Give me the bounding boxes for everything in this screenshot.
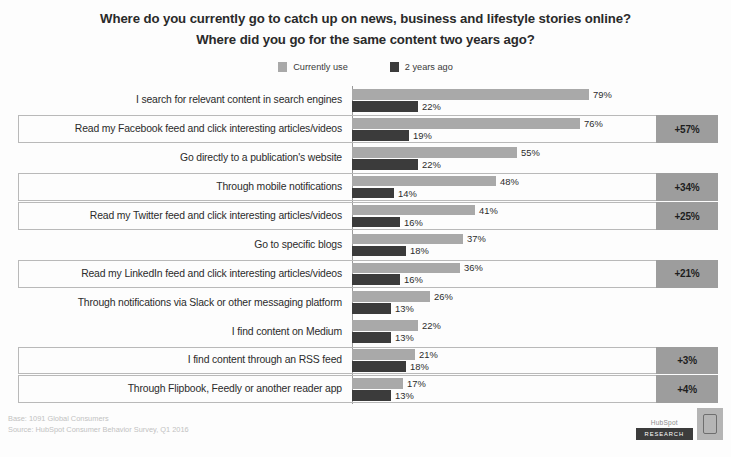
bar-value-label: 17% [407,378,426,389]
chart-row: Through notifications via Slack or other… [0,288,731,317]
chart-page: Where do you currently go to catch up on… [0,0,731,457]
legend-swatch-icon [390,62,399,72]
bar-two-years-ago [352,303,391,314]
bar-value-label: 79% [593,89,612,100]
bar-two-years-ago [352,246,406,257]
legend-item-2: 2 years ago [390,62,453,72]
chart-row: I find content on Medium22%13% [0,317,731,346]
delta-badge: +57% [656,115,718,143]
bar-two-years-ago [352,130,409,141]
category-label: Through Flipbook, Feedly or another read… [0,375,348,404]
delta-badge: +34% [656,173,718,201]
chart-row: Read my Twitter feed and click interesti… [0,202,731,231]
legend-label: 2 years ago [405,62,453,72]
chart-row: Through Flipbook, Feedly or another read… [0,375,731,404]
brand-mark: HubSpot RESEARCH [636,419,693,440]
bar-currently-use [352,205,475,216]
brand-logo: HubSpot RESEARCH [636,408,723,440]
category-label: I search for relevant content in search … [0,86,348,115]
bar-currently-use [352,349,415,360]
bar-group: 13% [352,303,731,314]
category-label: Read my Facebook feed and click interest… [0,115,348,144]
bar-value-label: 18% [410,245,429,256]
bar-currently-use [352,378,403,389]
bar-value-label: 18% [410,361,429,372]
bar-value-label: 36% [464,262,483,273]
bar-group: 26% [352,291,731,302]
category-label: Go to specific blogs [0,230,348,259]
delta-badge: +21% [656,260,718,288]
chart-legend: Currently use2 years ago [0,62,731,72]
legend-label: Currently use [293,62,348,72]
brand-badge-inner [703,414,717,434]
bar-two-years-ago [352,274,400,285]
bar-two-years-ago [352,188,394,199]
chart-row: Read my LinkedIn feed and click interest… [0,259,731,288]
footer-notes: Base: 1091 Global Consumers Source: HubS… [8,414,189,435]
bar-group: 79% [352,89,731,100]
bar-value-label: 41% [479,205,498,216]
bar-value-label: 21% [419,349,438,360]
row-bars: 55%22% [348,144,731,173]
bar-rows: I search for relevant content in search … [0,86,731,404]
bar-value-label: 13% [395,332,414,343]
chart-row: Go to specific blogs37%18% [0,230,731,259]
brand-badge-icon [697,408,723,440]
bar-value-label: 22% [422,159,441,170]
bar-group: 37% [352,234,731,245]
footer-base: Base: 1091 Global Consumers [8,414,189,425]
bar-two-years-ago [352,361,406,372]
bar-currently-use [352,89,589,100]
bar-value-label: 19% [413,130,432,141]
bar-currently-use [352,118,580,129]
bar-group: 18% [352,246,731,257]
delta-badge: +3% [656,347,718,375]
category-label: Through mobile notifications [0,173,348,202]
bar-group: 22% [352,320,731,331]
category-label: I find content on Medium [0,317,348,346]
bar-two-years-ago [352,217,400,228]
bar-value-label: 37% [467,233,486,244]
row-bars: 22%13% [348,317,731,346]
category-label: Read my LinkedIn feed and click interest… [0,259,348,288]
page-title: Where do you currently go to catch up on… [0,8,731,50]
chart-plot-area: I search for relevant content in search … [0,86,731,404]
bar-value-label: 26% [434,291,453,302]
bar-currently-use [352,234,463,245]
bar-value-label: 14% [398,188,417,199]
category-label: Read my Twitter feed and click interesti… [0,202,348,231]
brand-research-chip: RESEARCH [636,428,693,440]
bar-value-label: 13% [395,390,414,401]
title-line-2: Where did you go for the same content tw… [0,29,731,50]
bar-group: 22% [352,101,731,112]
chart-row: Through mobile notifications48%14%+34% [0,173,731,202]
bar-value-label: 13% [395,303,414,314]
legend-item-1: Currently use [278,62,348,72]
bar-value-label: 16% [404,274,423,285]
chart-row: Go directly to a publication's website55… [0,144,731,173]
row-bars: 26%13% [348,288,731,317]
category-label: Go directly to a publication's website [0,144,348,173]
bar-value-label: 55% [521,147,540,158]
bar-currently-use [352,291,430,302]
chart-row: Read my Facebook feed and click interest… [0,115,731,144]
bar-currently-use [352,176,496,187]
row-bars: 37%18% [348,230,731,259]
category-label: Through notifications via Slack or other… [0,288,348,317]
bar-two-years-ago [352,332,391,343]
chart-row: I find content through an RSS feed21%18%… [0,346,731,375]
bar-value-label: 22% [422,320,441,331]
row-bars: 79%22% [348,86,731,115]
legend-swatch-icon [278,62,287,72]
bar-value-label: 76% [584,118,603,129]
bar-group: 13% [352,332,731,343]
bar-currently-use [352,263,460,274]
bar-value-label: 16% [404,217,423,228]
bar-value-label: 22% [422,101,441,112]
bar-group: 22% [352,159,731,170]
bar-currently-use [352,320,418,331]
footer-source: Source: HubSpot Consumer Behavior Survey… [8,425,189,436]
chart-row: I search for relevant content in search … [0,86,731,115]
bar-two-years-ago [352,390,391,401]
delta-badge: +25% [656,202,718,230]
